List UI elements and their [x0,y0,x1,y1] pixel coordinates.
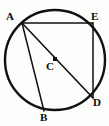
segment-AB [22,23,44,111]
vertex-label-e: E [91,11,98,22]
segment-AD [22,23,93,98]
vertex-label-d: D [93,97,101,108]
vertex-label-a: A [6,11,14,22]
vertex-label-c: C [46,61,54,72]
geometry-diagram: A E D B C [0,0,109,126]
vertex-label-b: B [40,112,47,123]
